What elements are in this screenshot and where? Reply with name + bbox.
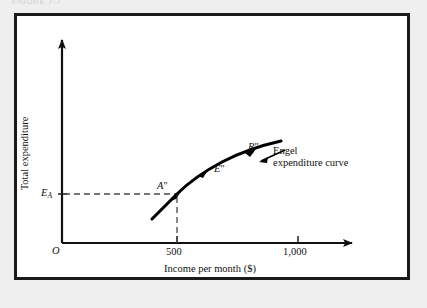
- origin-label: O: [52, 245, 60, 256]
- x-tick-label-1000: 1,000: [283, 246, 307, 257]
- point-r-prime: ″: [254, 141, 258, 152]
- curve-direction-arrows: [171, 149, 256, 201]
- x-tick-label-500: 500: [166, 246, 182, 257]
- point-label-r: R″: [248, 141, 258, 152]
- x-axis-label: Income per month ($): [110, 263, 310, 274]
- curve-annotation: Engel expenditure curve: [273, 145, 349, 169]
- point-a-marker: [176, 193, 178, 195]
- curve-annotation-line-1: Engel: [273, 145, 349, 157]
- chart-canvas: [0, 0, 427, 308]
- ea-subscript: A: [47, 191, 52, 200]
- y-tick-label-ea: EA: [41, 187, 52, 200]
- point-label-a: A″: [157, 180, 167, 191]
- point-a-prime: ″: [163, 180, 167, 191]
- y-axis-label: Total expenditure: [19, 104, 30, 204]
- point-e-prime: ″: [220, 163, 224, 174]
- engel-expenditure-curve: [152, 141, 281, 219]
- point-label-e: E″: [214, 163, 224, 174]
- r-leader-arrowhead: [259, 157, 268, 163]
- curve-annotation-line-2: expenditure curve: [273, 157, 349, 169]
